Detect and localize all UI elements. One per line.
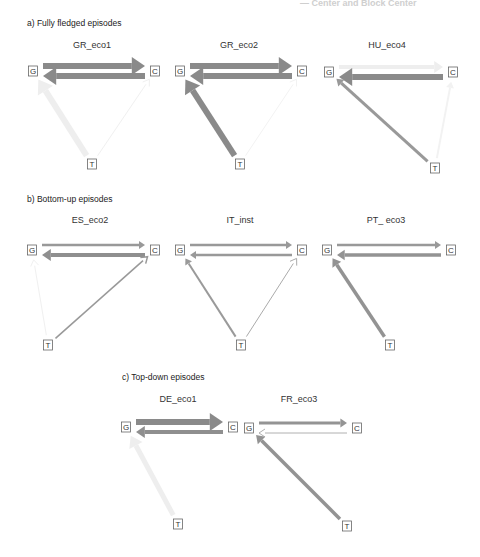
edge-c-to-g bbox=[339, 68, 443, 86]
panel-fr_eco3: FR_eco3GCT bbox=[245, 394, 362, 531]
node-t: T bbox=[236, 159, 245, 169]
node-label: C bbox=[152, 246, 158, 255]
node-label: T bbox=[176, 520, 181, 529]
node-label: G bbox=[177, 246, 183, 255]
edge-g-to-c bbox=[259, 419, 347, 428]
arrowhead-icon bbox=[190, 251, 196, 259]
node-label: C bbox=[299, 67, 305, 76]
panel-gr_eco1: GR_eco1GCT bbox=[29, 40, 160, 169]
panel-it_inst: IT_instGCT bbox=[176, 215, 307, 350]
edge-t-to-g bbox=[185, 258, 235, 336]
node-label: G bbox=[246, 424, 252, 433]
panel-gr_eco2: GR_eco2GCT bbox=[176, 40, 307, 169]
node-g: G bbox=[176, 66, 185, 76]
episode-network-diagram: — Center and Block Center a) Fully fledg… bbox=[0, 0, 480, 557]
panel-pt_eco3: PT_ eco3GCT bbox=[323, 215, 456, 350]
node-label: C bbox=[448, 246, 454, 255]
node-label: T bbox=[46, 341, 51, 350]
node-c: C bbox=[151, 245, 160, 255]
node-g: G bbox=[323, 245, 332, 255]
node-label: C bbox=[450, 68, 456, 77]
node-label: C bbox=[299, 246, 305, 255]
arrowhead-icon bbox=[286, 241, 292, 249]
edge-c-to-g bbox=[190, 67, 292, 85]
node-label: G bbox=[177, 67, 183, 76]
edge-t-to-c bbox=[246, 79, 297, 155]
node-c: C bbox=[298, 66, 307, 76]
edge-g-to-c bbox=[190, 57, 292, 75]
edge-t-to-g bbox=[185, 79, 235, 155]
section-label: a) Fully fledged episodes bbox=[27, 18, 122, 28]
node-g: G bbox=[29, 66, 38, 76]
node-t: T bbox=[174, 519, 183, 529]
node-c: C bbox=[447, 245, 456, 255]
edge-g-to-c bbox=[190, 241, 292, 249]
panel-hu_eco4: HU_eco4GCT bbox=[325, 40, 458, 173]
panel-title: HU_eco4 bbox=[368, 40, 406, 50]
panel-de_eco1: DE_eco1GCT bbox=[122, 394, 238, 529]
edge-c-to-g bbox=[259, 429, 347, 437]
edge-t-to-g bbox=[332, 258, 384, 336]
node-t: T bbox=[237, 340, 246, 350]
arrowhead-icon bbox=[139, 241, 145, 249]
node-c: C bbox=[151, 66, 160, 76]
node-c: C bbox=[353, 423, 362, 433]
node-label: T bbox=[239, 341, 244, 350]
edge-t-to-g bbox=[336, 79, 427, 162]
edge-t-to-g bbox=[256, 435, 340, 519]
edge-c-to-g bbox=[42, 249, 145, 261]
panel-es_eco2: ES_eco2GCT bbox=[28, 215, 160, 350]
edge-t-to-c bbox=[246, 258, 296, 336]
node-label: G bbox=[324, 246, 330, 255]
node-label: G bbox=[30, 67, 36, 76]
section-0: a) Fully fledged episodesGR_eco1GCTGR_ec… bbox=[27, 18, 458, 173]
arrowhead-icon bbox=[42, 249, 51, 261]
panel-title: GR_eco1 bbox=[73, 40, 111, 50]
arrowhead-icon bbox=[290, 79, 297, 86]
node-label: G bbox=[29, 246, 35, 255]
section-label: b) Bottom-up episodes bbox=[27, 194, 113, 204]
node-g: G bbox=[122, 422, 131, 432]
panel-title: GR_eco2 bbox=[220, 40, 258, 50]
edge-g-to-c bbox=[136, 413, 223, 431]
edge-t-to-g bbox=[38, 79, 87, 155]
node-label: C bbox=[230, 423, 236, 432]
arrowhead-icon bbox=[143, 79, 150, 86]
edge-t-to-g bbox=[31, 260, 47, 335]
arrowhead-icon bbox=[279, 57, 292, 75]
arrowhead-icon bbox=[31, 260, 39, 267]
edge-g-to-c bbox=[339, 61, 443, 73]
node-label: T bbox=[433, 164, 438, 173]
panel-title: FR_eco3 bbox=[281, 394, 318, 404]
edge-t-to-c bbox=[98, 79, 150, 155]
arrowhead-icon bbox=[340, 419, 347, 428]
section-label: c) Top-down episodes bbox=[122, 372, 205, 382]
node-t: T bbox=[44, 340, 53, 350]
panel-title: PT_ eco3 bbox=[367, 215, 406, 225]
edge-c-to-g bbox=[43, 67, 145, 85]
node-t: T bbox=[343, 521, 352, 531]
node-t: T bbox=[386, 340, 395, 350]
node-t: T bbox=[88, 159, 97, 169]
arrowhead-icon bbox=[290, 258, 297, 265]
edge-t-to-c bbox=[437, 82, 454, 158]
section-2: c) Top-down episodesDE_eco1GCTFR_eco3GCT bbox=[122, 372, 362, 531]
node-label: T bbox=[238, 160, 243, 169]
arrowhead-icon bbox=[446, 82, 454, 89]
edge-g-to-c bbox=[43, 57, 145, 75]
panel-title: DE_eco1 bbox=[159, 394, 196, 404]
arrowhead-icon bbox=[435, 241, 441, 249]
edge-g-to-c bbox=[42, 241, 145, 249]
node-g: G bbox=[28, 245, 37, 255]
node-label: T bbox=[345, 522, 350, 531]
arrowhead-icon bbox=[337, 250, 345, 261]
arrowhead-icon bbox=[210, 413, 223, 431]
node-g: G bbox=[325, 67, 334, 77]
edge-t-to-g bbox=[129, 436, 173, 515]
node-t: T bbox=[431, 163, 440, 173]
panel-title: ES_eco2 bbox=[72, 215, 109, 225]
node-c: C bbox=[449, 67, 458, 77]
edge-g-to-c bbox=[337, 241, 441, 249]
node-label: G bbox=[326, 68, 332, 77]
edge-c-to-g bbox=[190, 251, 292, 259]
